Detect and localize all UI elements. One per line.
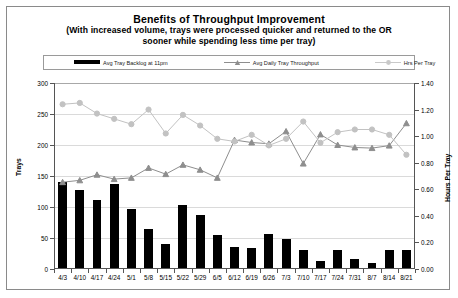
x-tick-label: 5/29 [194,274,206,281]
x-tick [415,269,416,273]
x-tick [123,269,124,273]
x-tick-label: 4/10 [74,274,86,281]
x-tick [54,269,55,273]
x-tick-label: 6/5 [213,274,222,281]
y-tick-label-right: 1.00 [421,133,433,140]
y-tick-right [415,189,419,190]
x-tick [106,269,107,273]
x-tick-label: 7/3 [282,274,291,281]
y-tick-label-right: 0.20 [421,239,433,246]
x-tick-label: 5/1 [127,274,136,281]
x-tick-label: 7/10 [297,274,309,281]
y-tick-label-right: 0.40 [421,212,433,219]
y-tick-label-left: 100 [37,204,48,211]
y-tick-right [415,242,419,243]
x-tick [71,269,72,273]
legend-item-backlog: Avg Tray Backlog at 11pm [74,59,168,66]
x-tick-label: 8/21 [400,274,412,281]
y-tick-label-right: 0.60 [421,186,433,193]
x-tick-label: 7/17 [314,274,326,281]
y-tick-left [50,176,54,177]
x-tick-label: 5/15 [160,274,172,281]
x-tick-label: 5/8 [144,274,153,281]
y-tick-right [415,83,419,84]
x-tick-label: 6/12 [228,274,240,281]
y-tick-right [415,110,419,111]
legend-label-throughput: Avg Daily Tray Throughput [253,60,319,66]
y-tick-left [50,207,54,208]
y-tick-right [415,163,419,164]
x-tick [346,269,347,273]
x-tick-label: 8/7 [368,274,377,281]
y-axis-title-left: Trays [15,158,22,176]
y-tick-label-right: 0.00 [421,266,433,273]
page-title: Benefits of Throughput Improvement [7,13,451,25]
legend-swatch-circle-line-icon [375,59,401,66]
title-block: Benefits of Throughput Improvement (With… [7,13,451,46]
y-tick-label-right: 0.80 [421,159,433,166]
x-tick [243,269,244,273]
y-tick-right [415,136,419,137]
legend-swatch-triangle-line-icon [224,59,250,66]
x-tick [140,269,141,273]
x-tick [381,269,382,273]
legend-item-throughput: Avg Daily Tray Throughput [224,59,319,66]
plot-area: 050100150200250300 0.000.200.400.600.801… [54,83,415,269]
y-tick-left [50,114,54,115]
x-tick [209,269,210,273]
x-tick [398,269,399,273]
y-tick-label-right: 1.40 [421,80,433,87]
y-tick-label-left: 150 [37,173,48,180]
plot-border [54,83,415,269]
y-tick-label-left: 50 [41,235,48,242]
x-tick [192,269,193,273]
legend-label-hrs-per-tray: Hrs Per Tray [404,60,435,66]
y-tick-label-left: 300 [37,80,48,87]
y-axis-title-right: Hours Per Tray [444,154,451,202]
x-tick-label: 5/22 [177,274,189,281]
chart-frame: Benefits of Throughput Improvement (With… [6,6,450,290]
x-tick [329,269,330,273]
chart-subtitle-line-1: (With increased volume, trays were proce… [7,25,451,36]
x-tick [312,269,313,273]
y-tick-left [50,238,54,239]
y-tick-label-left: 250 [37,111,48,118]
x-tick-label: 8/14 [383,274,395,281]
x-tick [277,269,278,273]
x-tick [295,269,296,273]
y-tick-left [50,83,54,84]
x-tick-label: 4/17 [91,274,103,281]
x-tick-label: 4/24 [108,274,120,281]
y-tick-label-left: 0 [44,266,48,273]
chart-legend: Avg Tray Backlog at 11pm Avg Daily Tray … [43,55,415,70]
legend-swatch-bar-icon [74,59,100,66]
x-tick-label: 4/3 [58,274,67,281]
y-tick-label-right: 1.20 [421,106,433,113]
x-tick [226,269,227,273]
x-tick [363,269,364,273]
chart-subtitle-line-2: sooner while spending less time per tray… [7,36,451,47]
x-tick [157,269,158,273]
x-tick-label: 7/24 [331,274,343,281]
x-tick-label: 7/31 [349,274,361,281]
legend-item-hrs-per-tray: Hrs Per Tray [375,59,435,66]
x-tick-label: 6/19 [245,274,257,281]
legend-label-backlog: Avg Tray Backlog at 11pm [103,60,168,66]
x-tick [174,269,175,273]
y-tick-right [415,216,419,217]
x-tick [260,269,261,273]
y-tick-label-left: 200 [37,142,48,149]
x-tick-label: 6/26 [263,274,275,281]
x-tick [88,269,89,273]
y-tick-left [50,145,54,146]
